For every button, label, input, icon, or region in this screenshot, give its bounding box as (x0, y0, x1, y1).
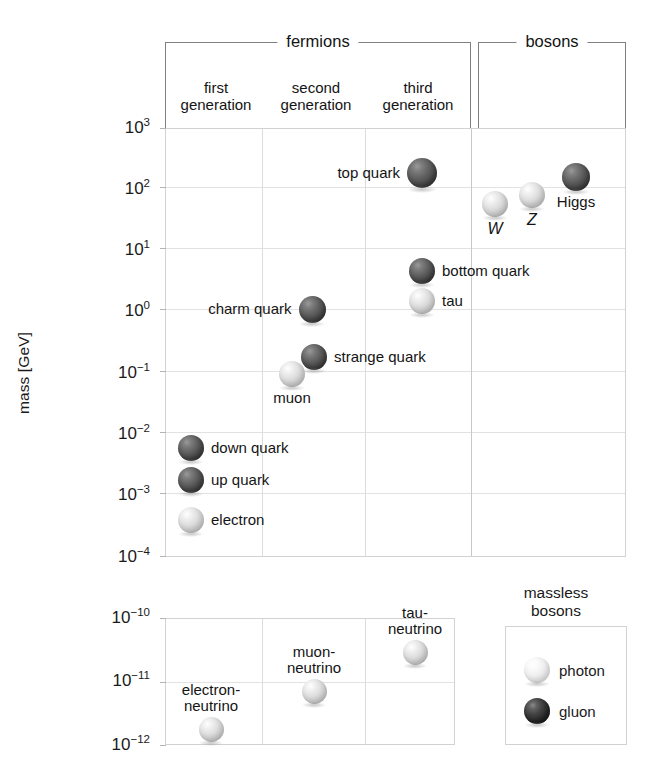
label-tau: tau (442, 293, 463, 309)
label-muon: muon (273, 390, 311, 406)
tickmark-1e2 (160, 187, 166, 188)
particle-charm-quark[interactable]: charm quark (299, 296, 326, 323)
label-higgs: Higgs (557, 194, 595, 210)
label-muon-neutrino: muon- neutrino (287, 643, 341, 675)
label-strange-quark: strange quark (334, 349, 426, 365)
particle-electron-neutrino[interactable]: electron- neutrino (199, 717, 224, 742)
label-electron: electron (211, 512, 264, 528)
y-tick-1em11: 10−11 (88, 672, 150, 689)
particle-electron[interactable]: electron (178, 507, 204, 533)
column-header-third-generation: third generation (372, 79, 464, 114)
sphere-bottom-quark (409, 258, 435, 284)
bosons-label: bosons (516, 32, 587, 51)
column-header-second-generation: second generation (270, 79, 362, 114)
divider-lower-gen1-gen2 (262, 619, 263, 744)
sphere-gluon (524, 698, 550, 724)
particle-tau-neutrino[interactable]: tau- neutrino (403, 640, 428, 665)
sphere-top-quark (407, 158, 437, 188)
column-header-first-generation: first generation (172, 79, 260, 114)
tickmark-1em1 (160, 371, 166, 372)
tickmark-1e1 (160, 248, 166, 249)
label-charm-quark: charm quark (208, 301, 291, 317)
plot-panel-neutrinos: tau- neutrino muon- neutrino electron- n… (165, 618, 455, 745)
label-up-quark: up quark (211, 472, 269, 488)
fermions-label: fermions (277, 32, 358, 51)
tickmark-1em12 (160, 745, 166, 746)
gridline-1e1 (166, 248, 625, 249)
y-axis-ticks: 103 102 101 100 10−1 10−2 10−3 10−4 10−1… (88, 0, 150, 773)
y-tick-1em2: 10−2 (88, 425, 150, 442)
legend-item-photon[interactable]: photon (524, 657, 605, 683)
legend-label-photon: photon (559, 662, 605, 679)
sphere-muon-neutrino (302, 679, 327, 704)
sphere-electron-neutrino (199, 717, 224, 742)
tickmark-1em3 (160, 493, 166, 494)
particle-w-boson[interactable]: W (482, 191, 508, 217)
sphere-z-boson (519, 182, 545, 208)
sphere-tau-neutrino (403, 640, 428, 665)
divider-gen2-gen3 (365, 129, 366, 556)
y-tick-1em3: 10−3 (88, 486, 150, 503)
label-electron-neutrino: electron- neutrino (182, 681, 240, 713)
legend-label-gluon: gluon (559, 703, 596, 720)
y-axis-title: mass [GeV] (15, 293, 33, 453)
sphere-tau (409, 288, 435, 314)
sphere-muon (279, 361, 305, 387)
sphere-charm-quark (299, 296, 326, 323)
label-tau-neutrino: tau- neutrino (388, 604, 442, 636)
sphere-higgs (562, 163, 590, 191)
massless-bosons-legend: photon gluon (505, 626, 627, 745)
tickmark-1e0 (160, 309, 166, 310)
particle-down-quark[interactable]: down quark (178, 435, 204, 461)
y-tick-1e0: 100 (88, 302, 150, 319)
label-down-quark: down quark (211, 440, 289, 456)
particle-bottom-quark[interactable]: bottom quark (409, 258, 435, 284)
divider-lower-gen2-gen3 (365, 619, 366, 744)
particle-z-boson[interactable]: Z (519, 182, 545, 208)
divider-fermions-bosons (471, 129, 472, 556)
label-bottom-quark: bottom quark (442, 263, 530, 279)
y-tick-1e2: 102 (88, 180, 150, 197)
y-tick-1em12: 10−12 (88, 736, 150, 753)
tickmark-1e3 (160, 128, 166, 129)
tickmark-1em10 (160, 618, 166, 619)
sphere-up-quark (178, 467, 204, 493)
particle-higgs[interactable]: Higgs (562, 163, 590, 191)
label-w-boson: W (487, 220, 502, 237)
sphere-down-quark (178, 435, 204, 461)
particle-muon-neutrino[interactable]: muon- neutrino (302, 679, 327, 704)
plot-panel-massive: top quark bottom quark tau charm quark s… (165, 128, 626, 557)
sphere-photon (524, 657, 550, 683)
gridline-1e2 (166, 187, 625, 188)
y-tick-1em10: 10−10 (88, 609, 150, 626)
tickmark-1em11 (160, 682, 166, 683)
gridline-1em3 (166, 493, 625, 494)
particle-top-quark[interactable]: top quark (407, 158, 437, 188)
gridline-1em1 (166, 371, 625, 372)
tickmark-1em4 (160, 556, 166, 557)
particle-muon[interactable]: muon (279, 361, 305, 387)
tickmark-1em2 (160, 432, 166, 433)
y-tick-1e1: 101 (88, 241, 150, 258)
particle-tau[interactable]: tau (409, 288, 435, 314)
label-z-boson: Z (527, 211, 537, 228)
massless-bosons-title: massless bosons (476, 584, 636, 620)
particle-mass-chart: mass [GeV] 103 102 101 100 10−1 10−2 10−… (0, 0, 652, 773)
sphere-w-boson (482, 191, 508, 217)
y-tick-1em1: 10−1 (88, 364, 150, 381)
particle-up-quark[interactable]: up quark (178, 467, 204, 493)
legend-item-gluon[interactable]: gluon (524, 698, 596, 724)
gridline-1em2 (166, 432, 625, 433)
y-tick-1em4: 10−4 (88, 548, 150, 565)
sphere-electron (178, 507, 204, 533)
y-tick-1e3: 103 (88, 119, 150, 136)
bosons-bracket: bosons (478, 42, 626, 128)
divider-gen1-gen2 (262, 129, 263, 556)
label-top-quark: top quark (337, 165, 400, 181)
